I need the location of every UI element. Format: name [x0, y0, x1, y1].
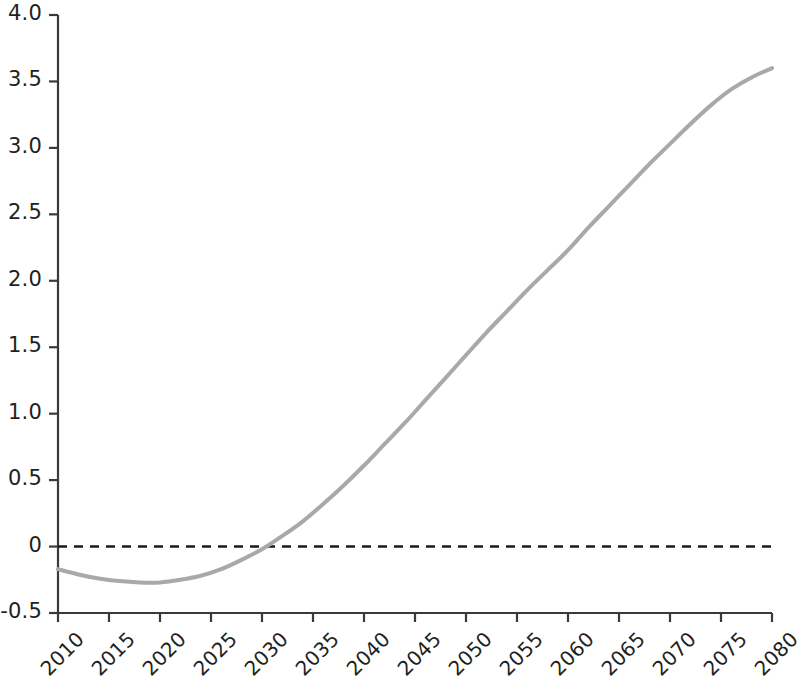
y-axis-tick-label: 2.5 [8, 200, 42, 224]
y-axis-tick-label: -0.5 [0, 599, 42, 623]
y-axis-tick-label: 2.0 [8, 267, 42, 291]
axes-group [58, 15, 772, 613]
y-axis-tick-label: 0.5 [8, 466, 42, 490]
series-line-projection [58, 68, 772, 583]
y-axis-tick-label: 1.0 [8, 400, 42, 424]
y-axis-ticks [49, 15, 58, 613]
y-axis-tick-label: 3.5 [8, 67, 42, 91]
y-axis-tick-label: 0 [28, 533, 42, 557]
y-axis-tick-label: 4.0 [8, 1, 42, 25]
x-axis-ticks [58, 613, 772, 622]
y-axis-tick-label: 1.5 [8, 333, 42, 357]
y-axis-tick-label: 3.0 [8, 134, 42, 158]
